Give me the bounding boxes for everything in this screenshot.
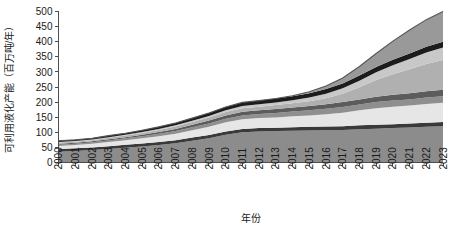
x-tick-label: 2001 xyxy=(70,147,81,170)
x-tick-label: 2009 xyxy=(204,147,215,170)
x-tick-label: 2020 xyxy=(387,147,398,170)
x-tick-label: 2018 xyxy=(354,147,365,170)
x-tick-label: 2021 xyxy=(404,147,415,170)
y-tick-label: 500 xyxy=(36,6,53,17)
x-tick-label: 2019 xyxy=(371,147,382,170)
x-tick-label: 2006 xyxy=(153,147,164,170)
y-tick-label: 100 xyxy=(36,127,53,138)
x-tick-label: 2000 xyxy=(53,147,64,170)
y-tick-label: 300 xyxy=(36,67,53,78)
stacked-area-chart: 0501001502002503003504004505002000200120… xyxy=(0,0,453,228)
area-bands-group xyxy=(59,12,444,163)
x-axis-title: 年份 xyxy=(241,212,261,224)
x-tick-label: 2011 xyxy=(237,148,248,170)
x-tick-label: 2013 xyxy=(270,147,281,170)
y-tick-label: 450 xyxy=(36,21,53,32)
x-tick-label: 2005 xyxy=(137,147,148,170)
x-tick-label: 2012 xyxy=(254,147,265,170)
x-tick-label: 2002 xyxy=(87,147,98,170)
x-tick-label: 2014 xyxy=(287,147,298,170)
chart-figure: 0501001502002503003504004505002000200120… xyxy=(0,0,453,228)
y-tick-label: 200 xyxy=(36,97,53,108)
y-tick-label: 250 xyxy=(36,82,53,93)
x-tick-label: 2015 xyxy=(304,147,315,170)
y-tick-label: 350 xyxy=(36,51,53,62)
y-tick-label: 0 xyxy=(47,157,53,168)
x-tick-label: 2008 xyxy=(187,147,198,170)
x-tick-label: 2007 xyxy=(170,147,181,170)
y-tick-label: 150 xyxy=(36,112,53,123)
x-tick-label: 2003 xyxy=(103,147,114,170)
x-tick-label: 2022 xyxy=(421,147,432,170)
y-tick-label: 400 xyxy=(36,36,53,47)
x-tick-label: 2017 xyxy=(337,147,348,170)
x-tick-label: 2023 xyxy=(438,147,449,170)
y-axis-title: 可利用液化产能（百万吨/年） xyxy=(3,21,15,154)
y-tick-label: 50 xyxy=(41,142,53,153)
x-tick-label: 2016 xyxy=(321,147,332,170)
x-tick-label: 2004 xyxy=(120,147,131,170)
x-tick-label: 2010 xyxy=(220,147,231,170)
